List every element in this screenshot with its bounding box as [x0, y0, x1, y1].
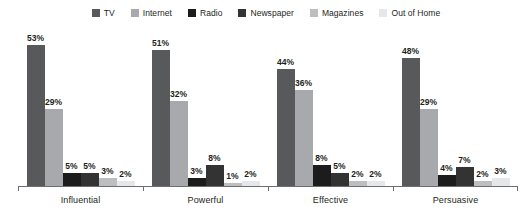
bar[interactable] [206, 165, 224, 186]
bar[interactable] [456, 167, 474, 186]
bar-value-label: 3% [494, 167, 506, 176]
bar[interactable] [492, 178, 510, 186]
bar-slot[interactable]: 8% [313, 26, 331, 186]
bar-slot[interactable]: 2% [117, 26, 135, 186]
axis-tick [268, 186, 269, 191]
axis-tick [517, 186, 518, 191]
bar-slot[interactable]: 2% [367, 26, 385, 186]
legend-swatch-icon [92, 9, 100, 17]
legend-item[interactable]: TV [92, 8, 115, 18]
legend-swatch-icon [310, 9, 318, 17]
category-label: Effective [268, 194, 393, 208]
bar-value-label: 36% [295, 79, 312, 88]
legend-swatch-icon [238, 9, 246, 17]
bar-slot[interactable]: 5% [63, 26, 81, 186]
bar-value-label: 2% [476, 170, 488, 179]
bar-slot[interactable]: 32% [170, 26, 188, 186]
bar[interactable] [295, 90, 313, 186]
bar-value-label: 8% [208, 154, 220, 163]
legend-swatch-icon [131, 9, 139, 17]
grouped-bar-chart: TVInternetRadioNewspaperMagazinesOut of … [0, 0, 532, 213]
x-axis [18, 186, 518, 192]
bar-value-label: 2% [119, 170, 131, 179]
bar-slot[interactable]: 8% [206, 26, 224, 186]
bar-value-label: 5% [333, 162, 345, 171]
category-label: Powerful [143, 194, 268, 208]
category-label-row: InfluentialPowerfulEffectivePersuasive [18, 194, 518, 208]
legend-label: Radio [200, 8, 222, 18]
bar[interactable] [313, 165, 331, 186]
bar-slot[interactable]: 36% [295, 26, 313, 186]
bar-value-label: 48% [402, 47, 419, 56]
axis-tick [393, 186, 394, 191]
bar-group: 44%36%8%5%2%2% [268, 26, 393, 186]
legend-item[interactable]: Internet [131, 8, 172, 18]
bar-slot[interactable]: 48% [402, 26, 420, 186]
bar[interactable] [81, 173, 99, 186]
bar-slot[interactable]: 3% [492, 26, 510, 186]
bar-value-label: 4% [440, 164, 452, 173]
bar-value-label: 5% [83, 162, 95, 171]
bar-slot[interactable]: 3% [188, 26, 206, 186]
bar[interactable] [170, 101, 188, 186]
bar[interactable] [45, 109, 63, 186]
bar-value-label: 44% [277, 58, 294, 67]
plot-area: 53%29%5%5%3%2%51%32%3%8%1%2%44%36%8%5%2%… [18, 26, 518, 186]
bar[interactable] [277, 69, 295, 186]
chart-legend: TVInternetRadioNewspaperMagazinesOut of … [0, 6, 532, 20]
bar-value-label: 2% [351, 170, 363, 179]
bar[interactable] [420, 109, 438, 186]
bar-slot[interactable]: 7% [456, 26, 474, 186]
axis-tick [18, 186, 19, 191]
bar-slot[interactable]: 3% [99, 26, 117, 186]
bar[interactable] [99, 178, 117, 186]
bar-value-label: 3% [101, 167, 113, 176]
bar-value-label: 29% [45, 98, 62, 107]
bar-value-label: 8% [315, 154, 327, 163]
category-label: Persuasive [393, 194, 518, 208]
bar[interactable] [27, 45, 45, 186]
bar-slot[interactable]: 4% [438, 26, 456, 186]
legend-item[interactable]: Out of Home [379, 8, 440, 18]
bar-slot[interactable]: 29% [45, 26, 63, 186]
bar-slot[interactable]: 51% [152, 26, 170, 186]
legend-item[interactable]: Radio [188, 8, 222, 18]
axis-tick [143, 186, 144, 191]
bar-slot[interactable]: 5% [81, 26, 99, 186]
legend-item[interactable]: Newspaper [238, 8, 293, 18]
bar[interactable] [402, 58, 420, 186]
legend-item[interactable]: Magazines [310, 8, 364, 18]
bar-slot[interactable]: 5% [331, 26, 349, 186]
bar-value-label: 3% [190, 167, 202, 176]
bar-value-label: 29% [420, 98, 437, 107]
bar-value-label: 32% [170, 90, 187, 99]
legend-swatch-icon [379, 9, 387, 17]
bar-value-label: 53% [27, 34, 44, 43]
bar-value-label: 51% [152, 39, 169, 48]
bar-slot[interactable]: 2% [349, 26, 367, 186]
legend-label: Out of Home [391, 8, 440, 18]
bar-value-label: 7% [458, 156, 470, 165]
bar-slot[interactable]: 29% [420, 26, 438, 186]
bar-value-label: 5% [65, 162, 77, 171]
bar-value-label: 1% [226, 172, 238, 181]
legend-label: Internet [143, 8, 172, 18]
bar[interactable] [331, 173, 349, 186]
category-label: Influential [18, 194, 143, 208]
bar[interactable] [438, 175, 456, 186]
bar-slot[interactable]: 2% [474, 26, 492, 186]
legend-label: Newspaper [250, 8, 293, 18]
bar-group: 48%29%4%7%2%3% [393, 26, 518, 186]
bar-value-label: 2% [369, 170, 381, 179]
bar-slot[interactable]: 2% [242, 26, 260, 186]
bar-slot[interactable]: 53% [27, 26, 45, 186]
bar-slot[interactable]: 1% [224, 26, 242, 186]
bar-slot[interactable]: 44% [277, 26, 295, 186]
bar-group: 51%32%3%8%1%2% [143, 26, 268, 186]
legend-label: Magazines [322, 8, 364, 18]
bar-group: 53%29%5%5%3%2% [18, 26, 143, 186]
bar[interactable] [152, 50, 170, 186]
bar[interactable] [63, 173, 81, 186]
bar[interactable] [188, 178, 206, 186]
legend-swatch-icon [188, 9, 196, 17]
